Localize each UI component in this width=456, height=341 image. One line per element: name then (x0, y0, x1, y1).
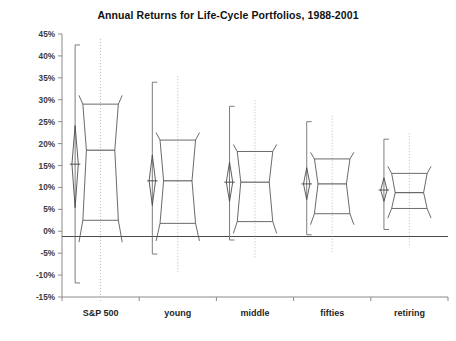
box-plot-group (70, 39, 122, 301)
y-tick-label: 5% (43, 205, 56, 214)
x-axis-category-label: middle (240, 308, 269, 318)
x-axis-category-label: young (164, 308, 191, 318)
plot-area: 45%40%35%30%25%20%15%10%5%0%-5%-10%-15% … (0, 0, 456, 341)
y-tick-label: -5% (40, 249, 55, 258)
y-tick-label: 15% (39, 162, 56, 171)
y-axis-ticks: 45%40%35%30%25%20%15%10%5%0%-5%-10%-15% (36, 30, 62, 302)
y-tick-label: 20% (39, 140, 56, 149)
box-plot-group (379, 133, 431, 247)
y-tick-label: -15% (36, 293, 56, 302)
axis-lines (62, 34, 448, 297)
chart-container: Annual Returns for Life-Cycle Portfolios… (0, 0, 456, 341)
y-tick-label: 35% (39, 74, 56, 83)
box-plot-groups (70, 39, 431, 301)
box-plot-group (302, 116, 354, 253)
y-tick-label: 30% (39, 96, 56, 105)
box-plot-group (224, 100, 276, 258)
x-axis-ticks (62, 297, 448, 301)
y-tick-label: 0% (43, 227, 56, 236)
y-tick-label: 25% (39, 118, 56, 127)
y-tick-label: 40% (39, 52, 56, 61)
y-tick-label: -10% (36, 271, 56, 280)
box-plot-group (147, 76, 199, 272)
x-axis-category-label: retiring (394, 308, 425, 318)
y-tick-label: 45% (39, 30, 56, 39)
x-axis-category-labels: S&P 500youngmiddlefiftiesretiring (83, 308, 425, 318)
x-axis-category-label: fifties (320, 308, 344, 318)
y-tick-label: 10% (39, 183, 56, 192)
x-axis-category-label: S&P 500 (83, 308, 119, 318)
